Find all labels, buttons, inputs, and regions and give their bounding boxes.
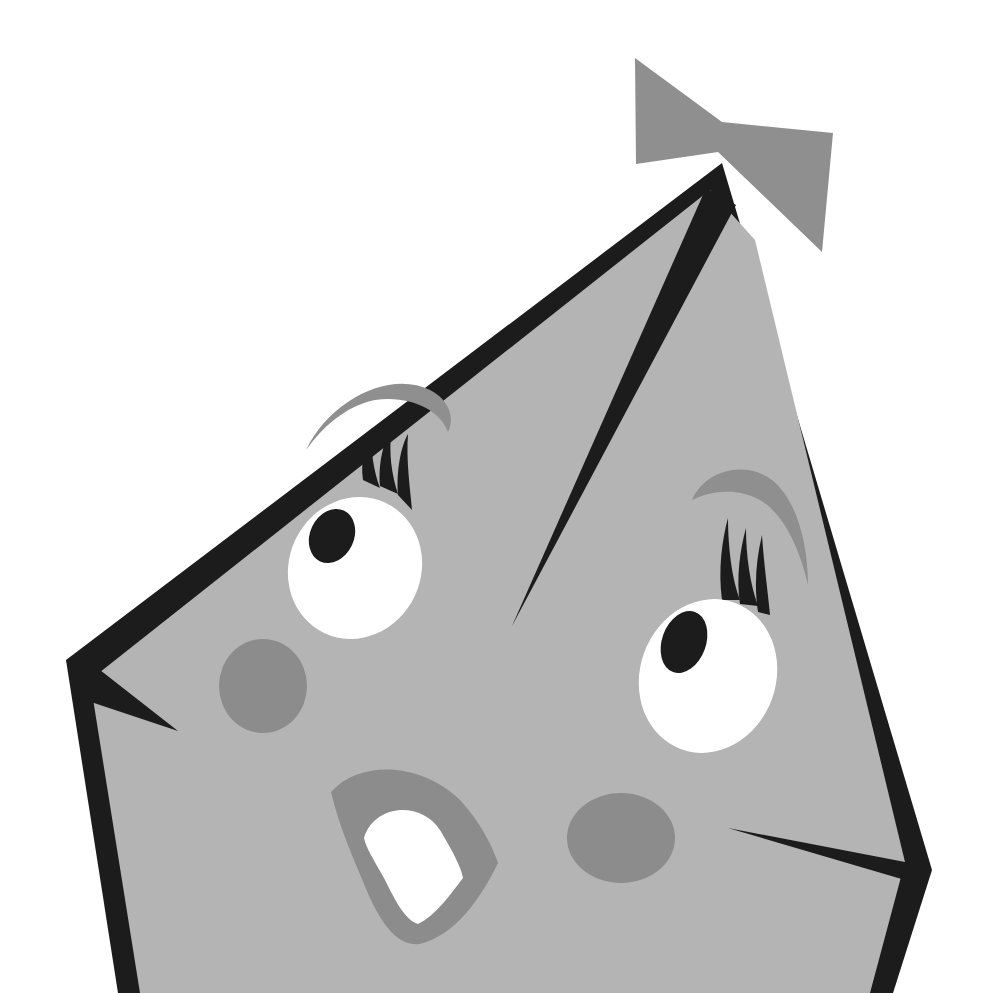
left-cheek <box>219 639 307 733</box>
right-cheek <box>567 793 675 883</box>
gem-character-illustration <box>0 0 989 993</box>
